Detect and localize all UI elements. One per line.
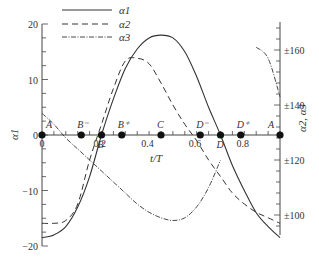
phase-point-label: A — [267, 119, 275, 130]
x-axis-title: t/T — [150, 152, 163, 164]
left-tick-label: 0 — [33, 130, 38, 141]
phase-point-label: B⁺ — [118, 119, 130, 130]
left-tick-label: 10 — [28, 75, 38, 86]
phase-point-marker — [237, 131, 244, 138]
left-axis-title: α1 — [8, 129, 20, 140]
phase-point-label: D⁻ — [195, 119, 209, 130]
phase-point-marker — [118, 131, 125, 138]
chart-canvas: 20100−10−20 ±160±140±120±100 00.20.40.60… — [0, 0, 319, 257]
legend-alpha1-label: α1 — [119, 4, 130, 16]
phase-point-label: A — [45, 119, 53, 130]
phase-point-marker — [217, 131, 224, 138]
phase-point-label: D — [216, 139, 225, 150]
phase-point-label: B⁻ — [77, 119, 89, 130]
x-tick-label: 0 — [40, 138, 45, 149]
left-tick-label: −20 — [22, 241, 38, 252]
right-tick-label: ±160 — [284, 45, 305, 56]
legend-alpha2-label: α2 — [119, 18, 131, 30]
phase-point-marker — [38, 131, 45, 138]
x-tick-label: 0.6 — [189, 138, 202, 149]
phase-point-label: B — [98, 139, 104, 150]
phase-point-label: D⁺ — [236, 119, 250, 130]
series-alpha3-line — [42, 113, 221, 220]
left-tick-label: −10 — [22, 186, 38, 197]
phase-point-marker — [98, 131, 105, 138]
legend: α1 α2 α3 — [62, 4, 131, 43]
left-tick-label: 20 — [28, 19, 38, 30]
legend-alpha3-label: α3 — [119, 31, 131, 43]
right-tick-label: ±100 — [284, 210, 305, 221]
phase-point-marker — [197, 131, 204, 138]
right-tick-label: ±120 — [284, 155, 305, 166]
phase-point-marker — [276, 131, 283, 138]
phase-point-label: C — [157, 119, 164, 130]
phase-point-marker — [157, 131, 164, 138]
x-tick-label: 0.4 — [141, 138, 154, 149]
right-axis-title: α2, α3 — [296, 103, 308, 132]
x-tick-label: 0.8 — [236, 138, 249, 149]
phase-point-marker — [78, 131, 85, 138]
